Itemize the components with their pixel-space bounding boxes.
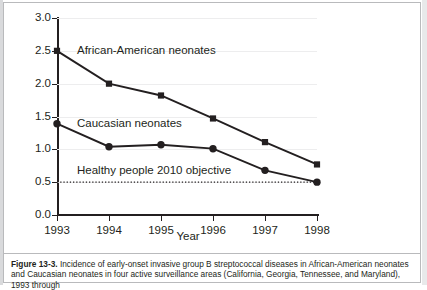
y-tick-label: 1.0 [35,144,51,156]
x-tick-mark [109,215,110,221]
data-point [53,120,60,127]
y-tick-label: 3.0 [35,12,51,24]
caption-divider [4,253,420,254]
x-tick-mark [161,215,162,221]
series-label-caucasian: Caucasian neonates [77,118,182,130]
figure-caption-label: Figure 13-3. [11,259,58,269]
data-point [314,161,320,167]
data-point [209,145,216,152]
figure-caption: Figure 13-3. Incidence of early-onset in… [11,259,415,290]
data-point [262,139,268,145]
data-point [105,143,112,150]
y-tick-label: 2.5 [35,45,51,57]
x-tick-mark [213,215,214,221]
reference-line-label: Healthy people 2010 objective [77,165,231,177]
x-axis-title: Year [57,231,319,243]
data-point [157,141,164,148]
x-tick-mark [317,215,318,221]
y-tick-label: 0.5 [35,176,51,188]
x-tick-mark [57,215,58,221]
x-tick-mark [265,215,266,221]
data-point [54,48,60,54]
chart-area: Cases per 1000 live births 0.00.51.01.52… [4,3,420,252]
plot-canvas: 0.00.51.01.52.02.53.0 199319941995199619… [57,18,317,215]
data-point [210,115,216,121]
data-point [261,167,268,174]
y-tick-label: 1.5 [35,111,51,123]
y-tick-label: 0.0 [35,209,51,221]
data-point [106,81,112,87]
figure-caption-text: Incidence of early-onset invasive group … [11,259,409,290]
data-point [313,178,320,185]
y-tick-label: 2.0 [35,78,51,90]
data-point [158,92,164,98]
series-label-african-american: African-American neonates [77,45,216,57]
page-right-edge [422,0,427,285]
